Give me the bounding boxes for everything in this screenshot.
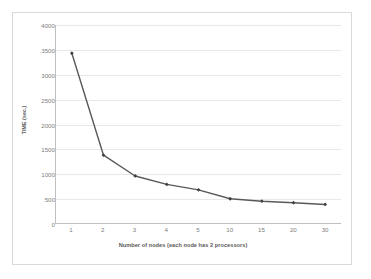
data-point-marker — [70, 51, 74, 55]
y-axis-tick-label: 3500 — [31, 46, 55, 53]
x-axis-tick-label: 20 — [278, 226, 308, 233]
data-point-marker — [292, 201, 296, 205]
x-axis-tick-label: 2 — [88, 226, 118, 233]
y-axis-tick-label: 3000 — [31, 71, 55, 78]
x-axis-tick-label: 15 — [247, 226, 277, 233]
y-axis-tick-label: 500 — [31, 196, 55, 203]
y-axis-title: TIME (sec.) — [21, 85, 27, 155]
y-axis-tick-label: 2500 — [31, 96, 55, 103]
x-axis-tick-labels: 1234510152030 — [55, 226, 341, 240]
y-axis-tick-label: 1500 — [31, 146, 55, 153]
y-axis-tick-labels: 05001000150020002500300035004000 — [31, 25, 55, 224]
x-axis-title: Number of nodes (each node has 2 process… — [13, 242, 353, 248]
data-point-marker — [323, 203, 327, 207]
x-axis-tick-label: 3 — [119, 226, 149, 233]
x-axis-tick-label: 5 — [183, 226, 213, 233]
x-axis-tick-label: 4 — [151, 226, 181, 233]
x-axis-tick-label: 10 — [215, 226, 245, 233]
data-point-marker — [260, 199, 264, 203]
data-point-marker — [197, 188, 201, 192]
data-point-marker — [228, 197, 232, 201]
series-polyline — [72, 53, 325, 204]
chart-container: TIME (sec.) 0500100015002000250030003500… — [12, 12, 352, 265]
y-axis-tick-label: 0 — [31, 221, 55, 228]
x-axis-tick-label: 30 — [310, 226, 340, 233]
x-axis-tick-label: 1 — [56, 226, 86, 233]
plot-area — [55, 25, 341, 224]
data-series-line — [56, 25, 341, 223]
y-axis-tick-label: 4000 — [31, 22, 55, 29]
data-point-marker — [165, 182, 169, 186]
y-axis-tick-label: 2000 — [31, 121, 55, 128]
y-axis-tick-label: 1000 — [31, 171, 55, 178]
